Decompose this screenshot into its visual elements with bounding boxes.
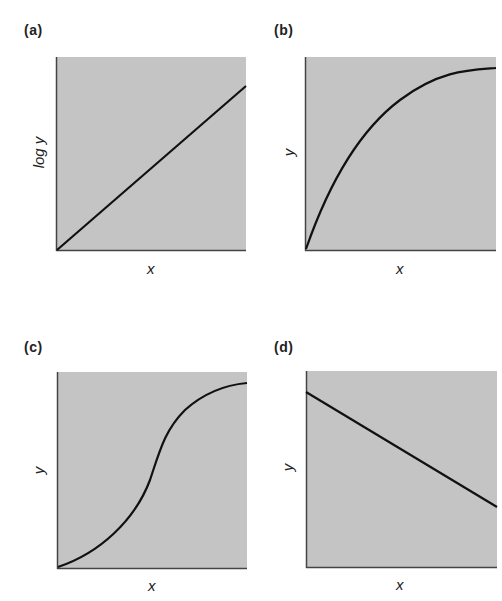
plot-d [306,371,497,568]
plot-area-d [306,371,497,567]
plot-b [305,57,496,251]
x-axis-label-c: x [148,577,156,594]
plot-area-b [305,57,496,250]
chart-grid [0,0,502,601]
plot-c [57,372,247,569]
plot-area-c [57,372,247,568]
plot-a [56,57,246,251]
x-axis-label-a: x [147,260,155,277]
x-axis-label-d: x [396,576,404,593]
y-axis-label-b: y [280,143,297,163]
y-axis-label-c: y [30,461,47,481]
y-axis-label-a: log y [30,129,47,177]
x-axis-label-b: x [396,260,404,277]
plot-area-a [56,57,246,250]
y-axis-label-d: y [279,458,296,478]
